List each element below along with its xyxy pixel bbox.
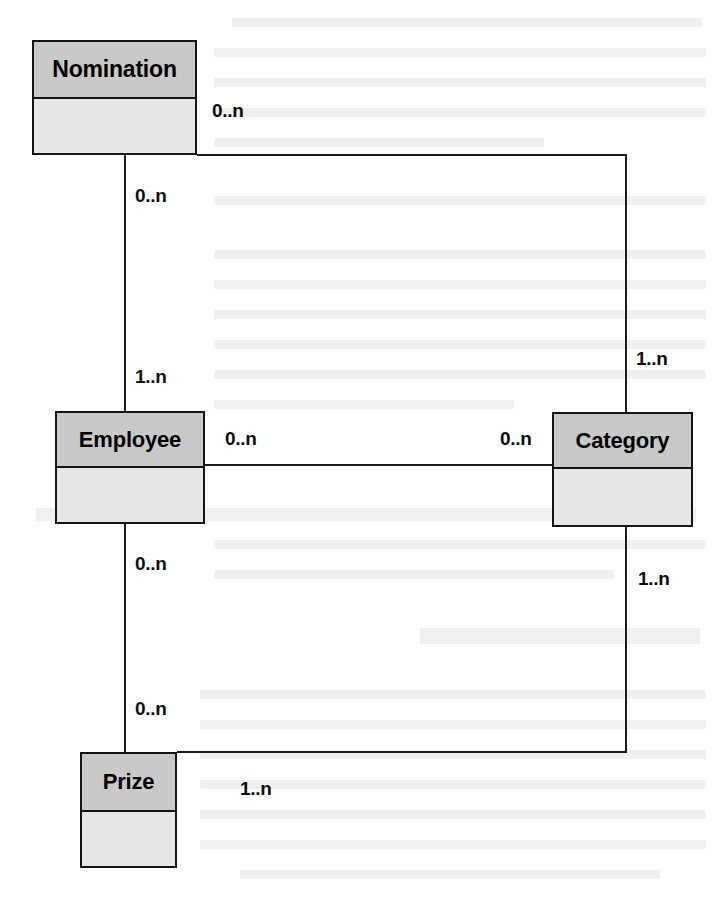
multiplicity-prize-right: 1..n [240,778,272,800]
multiplicity-category-left: 0..n [500,428,532,450]
connector-category-prize-vertical [625,526,627,753]
connector-employee-category [204,464,554,466]
connector-nomination-employee [124,155,126,412]
class-attributes-nomination [34,99,195,153]
class-box-category[interactable]: Category [552,412,693,527]
uml-class-diagram: Nomination Employee Category Prize 0..n … [0,0,726,906]
class-box-employee[interactable]: Employee [55,411,205,524]
multiplicity-prize-top: 0..n [135,698,167,720]
connector-nomination-category-horizontal [197,154,627,156]
class-attributes-prize [82,812,175,866]
multiplicity-employee-top: 1..n [135,366,167,388]
class-box-nomination[interactable]: Nomination [32,40,197,155]
connector-nomination-category-vertical [625,154,627,413]
class-name-prize: Prize [82,754,175,812]
multiplicity-employee-right: 0..n [225,428,257,450]
multiplicity-category-bottom: 1..n [638,568,670,590]
class-name-nomination: Nomination [34,42,195,99]
class-attributes-category [554,469,691,525]
connector-category-prize-horizontal [177,751,627,753]
class-box-prize[interactable]: Prize [80,752,177,868]
multiplicity-category-top: 1..n [636,348,668,370]
class-attributes-employee [57,468,203,522]
class-name-category: Category [554,414,691,469]
multiplicity-employee-bottom: 0..n [135,553,167,575]
multiplicity-nomination-right: 0..n [212,100,244,122]
class-name-employee: Employee [57,413,203,468]
connector-employee-prize [124,523,126,753]
multiplicity-nomination-bottom: 0..n [135,185,167,207]
